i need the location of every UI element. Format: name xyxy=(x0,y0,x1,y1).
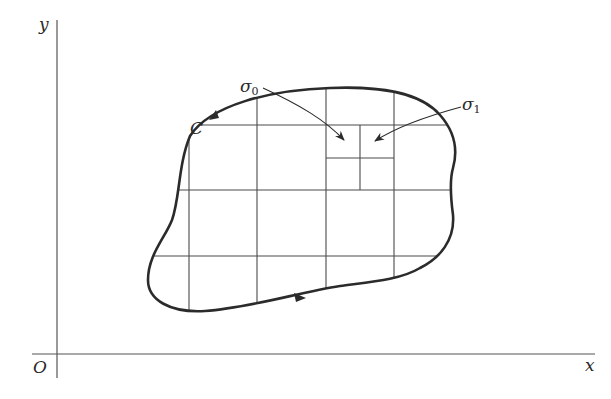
x-axis-label: x xyxy=(585,357,595,374)
sigma0-pointer-arrow xyxy=(263,88,344,140)
sigma1-label: σ1 xyxy=(462,96,481,115)
sigma1-subscript: 1 xyxy=(474,103,481,116)
subdivision-grid xyxy=(100,60,500,330)
axes xyxy=(32,20,595,378)
sigma0-label: σ0 xyxy=(240,78,259,97)
y-axis-label: y xyxy=(39,16,49,33)
curve-label-c: C xyxy=(190,120,203,137)
sigma1-symbol: σ xyxy=(462,94,474,114)
origin-label: O xyxy=(33,359,47,376)
sigma0-symbol: σ xyxy=(240,76,252,96)
region-subdivision-diagram xyxy=(0,0,611,399)
sigma0-subscript: 0 xyxy=(252,85,259,98)
